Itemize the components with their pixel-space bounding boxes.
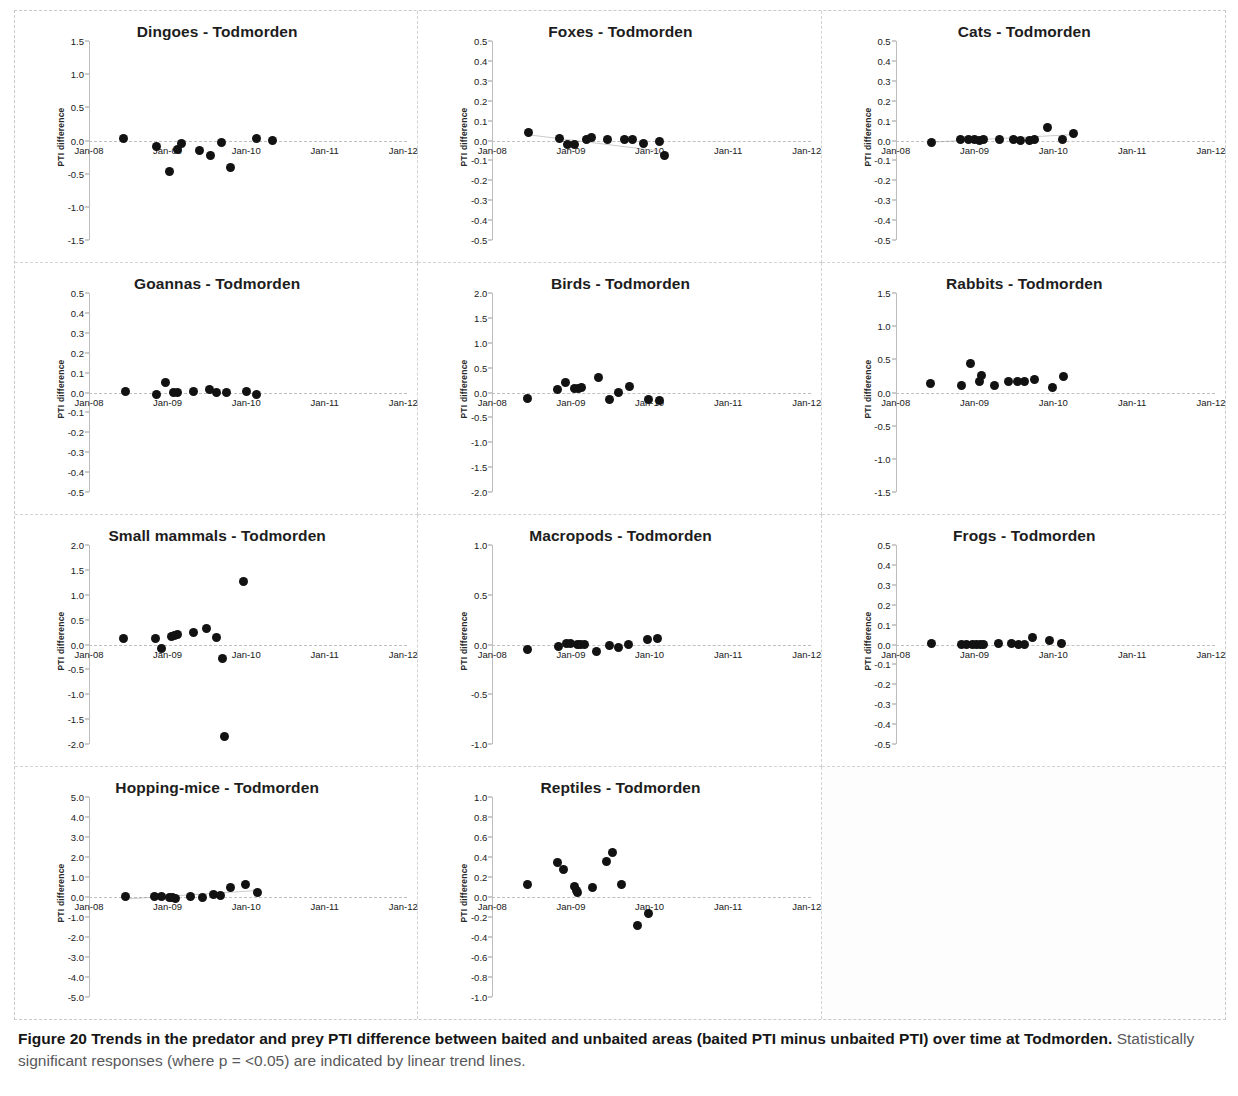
y-tick-mark	[892, 744, 896, 745]
x-tick-label: Jan-11	[714, 397, 742, 408]
y-tick-label: 0.2	[877, 599, 890, 610]
zero-baseline	[89, 141, 407, 142]
y-tick-mark	[85, 694, 89, 695]
data-point	[926, 379, 935, 388]
chart-panel-macropods: Macropods - TodmordenPTI difference1.00.…	[418, 515, 821, 767]
y-tick-mark	[85, 432, 89, 433]
x-tick-label: Jan-09	[960, 397, 989, 408]
y-axis-label: PTI difference	[459, 863, 469, 922]
y-tick-label: 0.4	[877, 55, 890, 66]
y-tick-label: -0.8	[471, 972, 487, 983]
x-tick-label: Jan-10	[232, 649, 261, 660]
y-tick-label: 1.0	[474, 792, 487, 803]
y-tick-label: 1.0	[474, 337, 487, 348]
panel-grid: Dingoes - TodmordenPTI difference1.51.00…	[15, 11, 1225, 1019]
y-tick-label: 0.5	[877, 354, 890, 365]
data-point	[202, 624, 211, 633]
y-tick-label: 0.3	[71, 327, 84, 338]
y-tick-label: -2.0	[68, 932, 84, 943]
data-point	[653, 634, 662, 643]
y-tick-label: 0.2	[474, 95, 487, 106]
y-axis-label: PTI difference	[862, 359, 872, 418]
plot-area-foxes: 0.50.40.30.20.10.0-0.1-0.2-0.3-0.4-0.5Ja…	[492, 41, 806, 240]
zero-baseline	[89, 897, 407, 898]
data-point	[927, 639, 936, 648]
y-tick-mark	[85, 107, 89, 108]
y-tick-label: 0.8	[474, 812, 487, 823]
y-tick-mark	[892, 41, 896, 42]
y-tick-mark	[85, 817, 89, 818]
y-tick-mark	[892, 604, 896, 605]
x-tick-label: Jan-12	[389, 397, 418, 408]
data-point	[189, 628, 198, 637]
data-point	[523, 645, 532, 654]
y-tick-mark	[85, 293, 89, 294]
x-tick-label: Jan-09	[153, 901, 182, 912]
y-tick-mark	[892, 545, 896, 546]
data-point	[189, 387, 198, 396]
plot-area-rabbits: 1.51.00.50.0-0.5-1.0-1.5Jan-08Jan-09Jan-…	[896, 293, 1211, 492]
data-point	[268, 136, 277, 145]
data-point	[633, 921, 642, 930]
y-tick-label: 0.2	[71, 347, 84, 358]
plot-area-goannas: 0.50.40.30.20.10.0-0.1-0.2-0.3-0.4-0.5Ja…	[89, 293, 403, 492]
data-point	[580, 640, 589, 649]
data-point	[252, 390, 261, 399]
data-point	[608, 848, 617, 857]
x-tick-label: Jan-08	[478, 397, 507, 408]
y-tick-label: -1.5	[68, 714, 84, 725]
y-tick-label: -1.0	[68, 201, 84, 212]
y-axis-label: PTI difference	[56, 107, 66, 166]
y-tick-mark	[488, 41, 492, 42]
chart-panel-reptiles: Reptiles - TodmordenPTI difference1.00.8…	[418, 767, 821, 1019]
data-point	[644, 909, 653, 918]
chart-panel-goannas: Goannas - TodmordenPTI difference0.50.40…	[15, 263, 418, 515]
zero-baseline	[89, 645, 407, 646]
data-point	[1045, 636, 1054, 645]
data-point	[1028, 633, 1037, 642]
y-tick-mark	[85, 240, 89, 241]
y-tick-mark	[488, 417, 492, 418]
y-tick-label: -0.5	[471, 412, 487, 423]
y-tick-label: -1.0	[68, 689, 84, 700]
y-tick-label: 2.0	[71, 540, 84, 551]
figure-page: Dingoes - TodmordenPTI difference1.51.00…	[0, 0, 1238, 1096]
y-tick-mark	[488, 160, 492, 161]
y-tick-mark	[892, 200, 896, 201]
x-tick-label: Jan-11	[1118, 397, 1146, 408]
y-tick-mark	[892, 492, 896, 493]
chart-panel-rabbits: Rabbits - TodmordenPTI difference1.51.00…	[822, 263, 1225, 515]
y-tick-mark	[85, 372, 89, 373]
plot-area-frogs: 0.50.40.30.20.10.0-0.1-0.2-0.3-0.4-0.5Ja…	[896, 545, 1211, 744]
y-tick-label: 0.5	[71, 614, 84, 625]
data-point	[990, 381, 999, 390]
data-point	[927, 138, 936, 147]
y-tick-label: -0.4	[471, 215, 487, 226]
data-point	[198, 893, 207, 902]
y-tick-label: 0.2	[474, 872, 487, 883]
y-tick-label: -0.5	[471, 235, 487, 246]
y-tick-mark	[85, 997, 89, 998]
data-point	[242, 387, 251, 396]
data-point	[594, 373, 603, 382]
y-tick-label: 0.3	[474, 75, 487, 86]
y-tick-label: 0.3	[877, 75, 890, 86]
y-tick-label: 0.2	[877, 95, 890, 106]
y-tick-mark	[488, 837, 492, 838]
y-tick-mark	[488, 442, 492, 443]
y-axis-label: PTI difference	[56, 359, 66, 418]
zero-baseline	[896, 141, 1215, 142]
data-point	[605, 395, 614, 404]
data-point	[614, 388, 623, 397]
y-tick-mark	[892, 564, 896, 565]
y-tick-label: -0.5	[874, 739, 890, 750]
x-tick-label: Jan-08	[478, 649, 507, 660]
data-point	[624, 640, 633, 649]
data-point	[614, 643, 623, 652]
data-point	[195, 146, 204, 155]
y-tick-mark	[85, 857, 89, 858]
y-tick-mark	[892, 704, 896, 705]
y-tick-label: -0.4	[874, 719, 890, 730]
data-point	[212, 388, 221, 397]
y-tick-label: -0.3	[471, 195, 487, 206]
